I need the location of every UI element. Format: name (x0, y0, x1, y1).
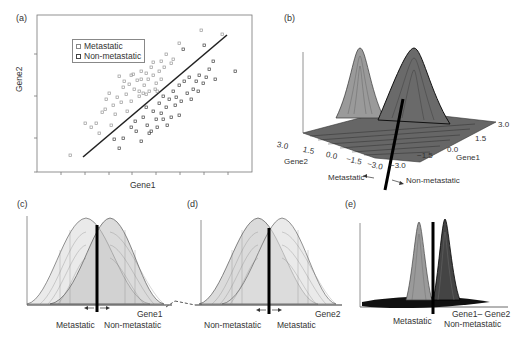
class-label-metastatic: Metastatic (393, 316, 432, 326)
panel-c: (c) Gene1 Metastatic Non-metastatic (0, 190, 180, 345)
metastatic-peak (406, 222, 432, 300)
class-label-metastatic: Metastatic (328, 173, 364, 182)
class-label-non-metastatic: Non-metastatic (406, 176, 460, 185)
class-label-non-metastatic: Non-metastatic (204, 320, 261, 330)
light-square-icon (76, 44, 81, 49)
gene1-tick: 1.5 (475, 134, 486, 143)
scatter-plot (0, 0, 270, 190)
class-label-metastatic: Metastatic (277, 320, 316, 330)
metastatic-peak (336, 48, 384, 118)
legend-item-non-metastatic: Non-metastatic (76, 51, 141, 61)
panel-a: (a) (0, 0, 270, 190)
non-metastatic-peak (378, 48, 450, 124)
legend-item-metastatic: Metastatic (76, 41, 141, 51)
axis-label-gene1: Gene1 (137, 309, 163, 319)
panel-e: (e) Gene1– Gene2 Metastatic Non-metastat… (350, 190, 529, 345)
class-label-metastatic: Metastatic (56, 320, 95, 330)
class-label-non-metastatic: Non-metastatic (104, 320, 161, 330)
gene-difference-projection-plot (350, 190, 529, 345)
axis-label-gene2: Gene2 (14, 66, 24, 92)
non-metastatic-peak (433, 219, 460, 300)
gene2-axis-label: Gene2 (284, 157, 308, 166)
scatter-legend: Metastatic Non-metastatic (72, 39, 145, 63)
panel-d: (d) Gene2 Non-metastatic Metastatic (170, 190, 350, 345)
gene1-tick: 3.0 (498, 120, 509, 129)
gene1-tick: −1.5 (417, 151, 433, 160)
class-label-non-metastatic: Non-metastatic (444, 319, 501, 329)
surface-plot (270, 0, 529, 200)
panel-b: (b) 3.0 1.5 0.0 −1.5 −3.0 Gene2 3.0 1.5 … (270, 0, 529, 200)
axis-label-gene1: Gene1 (130, 180, 156, 190)
axis-label-gene2: Gene2 (315, 309, 341, 319)
gene1-tick: −3.0 (390, 161, 406, 170)
axis-label-gene1-minus-gene2: Gene1– Gene2 (452, 309, 510, 319)
dark-square-icon (76, 54, 81, 59)
gene1-axis-label: Gene1 (456, 153, 480, 162)
